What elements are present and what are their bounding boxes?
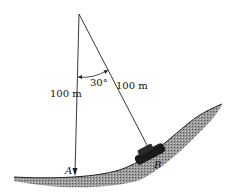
point-a-label: A [64,165,72,176]
right-length-label: 100 m [116,80,148,91]
angle-label: 30° [90,77,108,88]
arrowhead-icon [73,168,78,176]
left-length-label: 100 m [50,88,82,99]
arc-arrow-left-icon [78,75,82,79]
ground-slope [14,104,222,187]
point-b-label: B [153,159,161,170]
diagram-canvas: 30° 100 m 100 m A B [0,0,237,194]
